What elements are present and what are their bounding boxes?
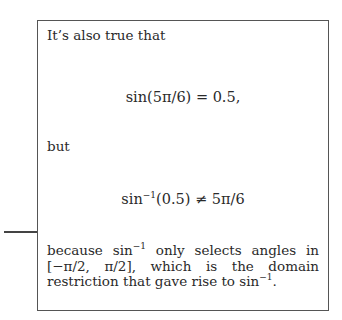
explanation-sup2: −1 <box>259 272 272 282</box>
equation-sin: sin(5π/6) = 0.5, <box>38 89 328 105</box>
equation-arcsin-rest: (0.5) ≠ 5π/6 <box>156 191 245 207</box>
connector-text: but <box>47 138 70 155</box>
intro-text: It’s also true that <box>47 27 165 44</box>
explanation-sup1: −1 <box>133 241 146 251</box>
explanation-part1: because sin <box>47 242 133 258</box>
margin-note-leader-line <box>4 231 37 233</box>
equation-arcsin-func: sin <box>121 191 142 207</box>
explanation-part3: . <box>273 273 277 289</box>
equation-arcsin-sup: −1 <box>143 190 156 200</box>
margin-note-box: It’s also true that sin(5π/6) = 0.5, but… <box>37 20 329 311</box>
explanation-paragraph: because sin−1 only selects angles in [−π… <box>47 243 319 290</box>
equation-arcsin: sin−1(0.5) ≠ 5π/6 <box>38 191 328 207</box>
